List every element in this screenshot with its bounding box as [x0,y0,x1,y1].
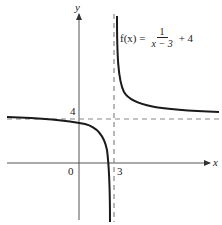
curve-left-branch [7,117,110,222]
function-label: f(x) = 1 x − 3 + 4 [120,26,193,49]
function-rhs: + 4 [179,32,193,44]
y-tick-label-4: 4 [70,106,76,117]
x-tick-label-3: 3 [117,166,123,177]
fraction-denominator: x − 3 [148,38,175,49]
x-axis-label: x [213,157,218,168]
fraction: 1 x − 3 [148,26,175,49]
y-axis-label: y [75,2,80,13]
function-lhs: f(x) = [120,32,145,44]
fraction-numerator: 1 [157,26,168,38]
origin-label: 0 [68,166,74,177]
